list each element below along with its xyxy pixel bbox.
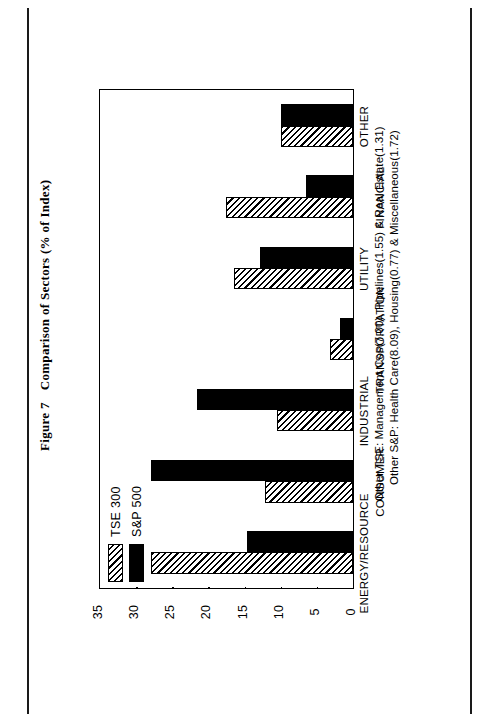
- bar-snp-500: [247, 531, 353, 552]
- y-tick-label: 25: [163, 595, 177, 629]
- bar-tse-300: [330, 339, 353, 360]
- gridline: [172, 587, 173, 588]
- y-tick-label: 15: [236, 595, 250, 629]
- footnote-tse: Other TSE: Management Cos(7.00), Pipelin…: [373, 126, 385, 501]
- bar-tse-300: [226, 197, 353, 218]
- y-tick-label: 20: [199, 595, 213, 629]
- bar-tse-300: [281, 126, 353, 147]
- bar-snp-500: [340, 318, 353, 339]
- bar-snp-500: [197, 389, 353, 410]
- category-label: INDUSTRIAL: [358, 341, 370, 481]
- legend-item-snp-500: S&P 500: [127, 486, 146, 582]
- bar-snp-500: [151, 460, 353, 481]
- legend-item-tse-300: TSE 300: [106, 486, 125, 582]
- y-tick-label: 5: [308, 595, 322, 629]
- bar-tse-300: [234, 268, 353, 289]
- gridline: [317, 587, 318, 588]
- y-tick-label: 35: [91, 595, 105, 629]
- gridline: [136, 587, 137, 588]
- bar-tse-300: [277, 410, 353, 431]
- y-tick-label: 0: [344, 595, 358, 629]
- footnote-snp: Other S&P: Health Care(8.09), Housing(0.…: [388, 130, 400, 485]
- chart-legend: TSE 300 S&P 500: [106, 486, 148, 582]
- page-rule-right: [470, 8, 472, 714]
- chart-rotation-wrapper: TSE 300 S&P 500 05101520253035 ENERGY/RE…: [73, 71, 403, 651]
- bar-chart: TSE 300 S&P 500 05101520253035 ENERGY/RE…: [73, 71, 403, 651]
- gridline: [208, 587, 209, 588]
- bar-tse-300: [265, 481, 353, 502]
- legend-label-tse-300: TSE 300: [109, 486, 123, 537]
- legend-swatch-snp-500: [129, 544, 144, 582]
- figure-title: Comparison of Sectors (% of Index): [37, 180, 52, 391]
- category-label: UTILITY: [358, 199, 370, 339]
- bar-snp-500: [306, 175, 353, 196]
- gridline: [281, 587, 282, 588]
- y-tick-label: 30: [127, 595, 141, 629]
- legend-swatch-tse-300: [108, 544, 123, 582]
- bar-tse-300: [151, 552, 353, 573]
- bar-snp-500: [260, 247, 353, 268]
- gridline: [245, 587, 246, 588]
- y-tick-label: 10: [272, 595, 286, 629]
- bar-snp-500: [281, 104, 353, 125]
- legend-label-snp-500: S&P 500: [130, 486, 144, 537]
- page-rule-left: [27, 8, 29, 714]
- category-label: OTHER: [358, 57, 370, 197]
- plot-area: TSE 300 S&P 500: [99, 89, 354, 589]
- figure-number: Figure 7: [37, 402, 52, 451]
- figure-caption: Figure 7Comparison of Sectors (% of Inde…: [37, 191, 59, 451]
- category-label: ENERGY/RESOURCE: [358, 483, 370, 623]
